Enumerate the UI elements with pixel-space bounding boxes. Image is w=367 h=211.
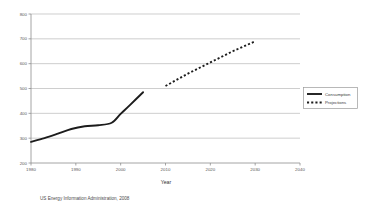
x-tick-label-2040: 2040 (295, 167, 305, 172)
x-tick-label-2030: 2030 (250, 167, 260, 172)
source-note: US Energy Information Administration, 20… (40, 196, 130, 201)
legend-label-projections: Projections (325, 100, 346, 105)
x-tick-label-1990: 1990 (71, 167, 81, 172)
y-tick-label-300: 300 (20, 136, 28, 141)
chart-canvas: 200300400500600700800 198019902000201020… (0, 0, 367, 211)
x-axis-ticks-group: 1980199020002010202020302040 (26, 163, 305, 172)
legend: Consumption Projections (304, 88, 358, 109)
chart-container: 200300400500600700800 198019902000201020… (0, 0, 367, 211)
legend-label-consumption: Consumption (325, 92, 351, 97)
gridlines-group (31, 14, 300, 138)
series-line-consumption (31, 92, 143, 142)
y-tick-label-600: 600 (20, 61, 28, 66)
x-tick-label-2010: 2010 (161, 167, 171, 172)
y-tick-label-700: 700 (20, 36, 28, 41)
y-tick-label-500: 500 (20, 86, 28, 91)
y-tick-label-800: 800 (20, 12, 28, 17)
y-tick-label-400: 400 (20, 111, 28, 116)
y-axis-ticks-group: 200300400500600700800 (20, 12, 31, 166)
x-tick-label-2020: 2020 (205, 167, 215, 172)
y-tick-label-200: 200 (20, 161, 28, 166)
x-axis-title: Year (161, 179, 172, 185)
x-tick-label-2000: 2000 (116, 167, 126, 172)
x-tick-label-1980: 1980 (26, 167, 36, 172)
